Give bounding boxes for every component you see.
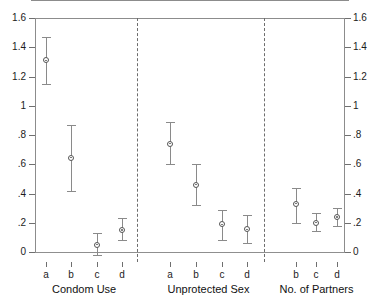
error-bar-cap-upper <box>333 208 342 209</box>
y-tick-label-left: .4 <box>0 189 26 199</box>
x-axis-line <box>31 0 349 1</box>
x-tick <box>46 262 47 267</box>
x-category-label: c <box>212 269 232 280</box>
y-tick-left <box>29 252 35 253</box>
error-bar-cap-upper <box>166 122 175 123</box>
x-category-label: b <box>186 269 206 280</box>
x-tick <box>97 262 98 267</box>
x-category-label: a <box>36 269 56 280</box>
error-bar-cap-lower <box>218 240 227 241</box>
y-tick-label-right: 1 <box>353 101 377 111</box>
y-tick-right <box>345 77 351 78</box>
error-bar-cap-upper <box>218 210 227 211</box>
y-tick-left <box>29 223 35 224</box>
panel-divider-2 <box>264 18 265 262</box>
y-tick-left <box>29 47 35 48</box>
y-tick-label-right: 1.2 <box>353 72 377 82</box>
y-tick-left <box>29 194 35 195</box>
y-tick-right <box>345 18 351 19</box>
y-tick-right <box>345 135 351 136</box>
error-bar-cap-lower <box>118 240 127 241</box>
error-bar-cap-upper <box>93 233 102 234</box>
y-tick-label-left: 1.6 <box>0 13 26 23</box>
error-bar-cap-lower <box>42 84 51 85</box>
group-title: Condom Use <box>52 283 116 295</box>
error-bar-cap-lower <box>192 205 201 206</box>
x-tick <box>316 262 317 267</box>
data-point-marker <box>293 201 299 207</box>
y-tick-label-right: .2 <box>353 218 377 228</box>
y-tick-label-left: 1.4 <box>0 42 26 52</box>
x-tick <box>71 262 72 267</box>
y-tick-label-right: .4 <box>353 189 377 199</box>
group-title: Unprotected Sex <box>168 283 250 295</box>
error-bar-cap-upper <box>42 37 51 38</box>
panel-divider-1 <box>137 18 138 262</box>
coefficient-plot-figure: 0.2.4.6.811.21.41.6 0.2.4.6.811.21.41.6 … <box>0 0 377 305</box>
x-tick <box>337 262 338 267</box>
x-tick <box>222 262 223 267</box>
y-tick-right <box>345 106 351 107</box>
error-bar-cap-lower <box>166 164 175 165</box>
x-category-label: c <box>306 269 326 280</box>
error-bar-cap-lower <box>93 255 102 256</box>
data-point-marker <box>193 182 199 188</box>
y-tick-label-right: 0 <box>353 247 377 257</box>
y-tick-right <box>345 252 351 253</box>
y-tick-right <box>345 223 351 224</box>
x-tick <box>296 262 297 267</box>
y-tick-label-left: 1 <box>0 101 26 111</box>
y-tick-left <box>29 164 35 165</box>
data-point-marker <box>334 214 340 220</box>
x-category-label: a <box>160 269 180 280</box>
error-bar-cap-lower <box>243 243 252 244</box>
y-tick-left <box>29 77 35 78</box>
y-tick-right <box>345 164 351 165</box>
error-bar-cap-upper <box>118 218 127 219</box>
data-point-marker <box>68 155 74 161</box>
y-tick-left <box>29 106 35 107</box>
data-point-marker <box>313 220 319 226</box>
y-tick-label-right: .6 <box>353 159 377 169</box>
x-category-label: b <box>286 269 306 280</box>
error-bar-cap-lower <box>67 191 76 192</box>
x-category-label: c <box>87 269 107 280</box>
error-bar-cap-upper <box>67 125 76 126</box>
data-point-marker <box>167 141 173 147</box>
error-bar-cap-upper <box>312 213 321 214</box>
error-bar-cap-lower <box>292 223 301 224</box>
x-tick <box>196 262 197 267</box>
error-bar-cap-lower <box>333 226 342 227</box>
zero-reference-line <box>35 252 345 253</box>
y-tick-right <box>345 47 351 48</box>
x-category-label: b <box>61 269 81 280</box>
x-tick <box>122 262 123 267</box>
x-category-label: d <box>237 269 257 280</box>
y-tick-label-right: 1.4 <box>353 42 377 52</box>
y-tick-label-left: .8 <box>0 130 26 140</box>
y-tick-label-left: .6 <box>0 159 26 169</box>
x-tick <box>170 262 171 267</box>
y-tick-left <box>29 135 35 136</box>
y-tick-label-left: 1.2 <box>0 72 26 82</box>
y-tick-label-right: .8 <box>353 130 377 140</box>
x-category-label: d <box>112 269 132 280</box>
y-tick-left <box>29 18 35 19</box>
error-bar-cap-lower <box>312 231 321 232</box>
y-tick-label-right: 1.6 <box>353 13 377 23</box>
y-tick-label-left: 0 <box>0 247 26 257</box>
y-tick-label-left: .2 <box>0 218 26 228</box>
plot-area <box>35 18 345 252</box>
data-point-marker <box>94 242 100 248</box>
error-bar-cap-upper <box>292 188 301 189</box>
error-bar-cap-upper <box>192 164 201 165</box>
y-tick-right <box>345 194 351 195</box>
x-tick <box>247 262 248 267</box>
group-title: No. of Partners <box>280 283 354 295</box>
x-category-label: d <box>327 269 347 280</box>
error-bar-cap-upper <box>243 215 252 216</box>
